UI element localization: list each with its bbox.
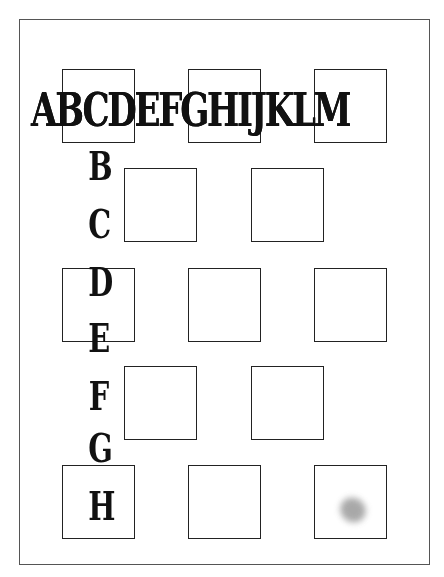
vertical-letter-g: G [88,428,110,468]
vertical-letter-h: H [88,486,110,526]
grid-square-r3-c3 [314,268,387,342]
header-alphabet-text: ABCDEFGHIJKLM [31,87,349,133]
vertical-letter-c: C [88,204,110,244]
grid-square-r4-c2 [251,366,324,440]
header-alphabet: ABCDEFGHIJKLM [88,80,292,140]
vertical-letter-d: D [88,262,110,302]
grid-square-r5-c2 [188,465,261,539]
grid-square-r2-c1 [124,168,197,242]
grid-square-r2-c2 [251,168,324,242]
vertical-letter-f: F [88,376,110,416]
vertical-letter-e: E [88,318,110,358]
grid-square-r3-c2 [188,268,261,342]
vertical-letter-b: B [88,146,110,186]
grid-square-r4-c1 [124,366,197,440]
